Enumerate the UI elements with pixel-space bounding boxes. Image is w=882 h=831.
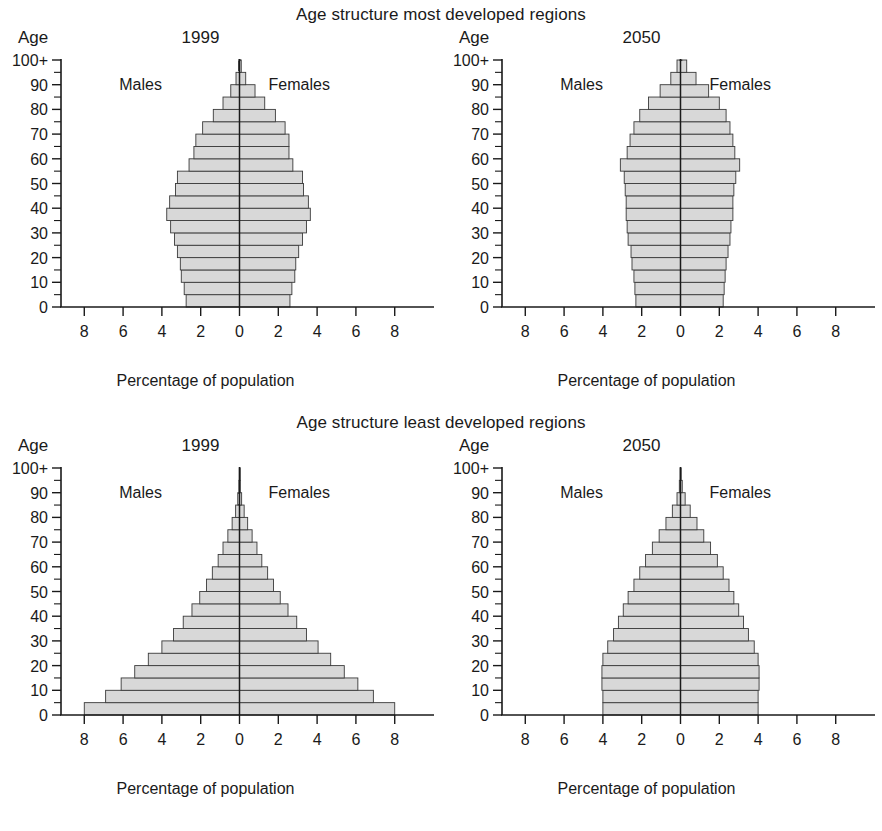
svg-text:90: 90 xyxy=(471,485,489,502)
svg-text:20: 20 xyxy=(30,250,48,267)
svg-text:30: 30 xyxy=(30,225,48,242)
svg-text:2: 2 xyxy=(196,323,205,340)
svg-text:2: 2 xyxy=(715,731,724,748)
svg-text:4: 4 xyxy=(157,323,166,340)
svg-text:8: 8 xyxy=(831,731,840,748)
svg-text:70: 70 xyxy=(471,534,489,551)
svg-text:6: 6 xyxy=(792,731,801,748)
svg-text:10: 10 xyxy=(30,682,48,699)
svg-text:4: 4 xyxy=(157,731,166,748)
svg-text:6: 6 xyxy=(792,323,801,340)
svg-text:80: 80 xyxy=(30,101,48,118)
svg-text:0: 0 xyxy=(480,299,489,316)
svg-text:40: 40 xyxy=(471,608,489,625)
svg-text:4: 4 xyxy=(598,323,607,340)
svg-text:50: 50 xyxy=(30,176,48,193)
x-axis-title: Percentage of population xyxy=(0,780,441,798)
svg-text:100+: 100+ xyxy=(453,54,489,69)
svg-text:2: 2 xyxy=(637,731,646,748)
pyramid-plot-most-1999: 0102030405060708090100+864202468 xyxy=(0,54,441,354)
figure-most-developed: Age structure most developed regions Age… xyxy=(0,0,882,408)
panel-year-label: 1999 xyxy=(0,436,441,456)
svg-text:6: 6 xyxy=(560,323,569,340)
svg-text:60: 60 xyxy=(471,151,489,168)
males-label: Males xyxy=(119,484,162,502)
svg-text:10: 10 xyxy=(471,682,489,699)
svg-text:8: 8 xyxy=(80,323,89,340)
svg-text:0: 0 xyxy=(676,731,685,748)
svg-text:8: 8 xyxy=(390,323,399,340)
panel-head-least-1999: Age 1999 xyxy=(0,436,441,462)
svg-text:90: 90 xyxy=(30,77,48,94)
females-label: Females xyxy=(269,484,330,502)
pyramid-plot-least-1999: 0102030405060708090100+864202468 xyxy=(0,462,441,762)
svg-text:40: 40 xyxy=(30,608,48,625)
svg-text:100+: 100+ xyxy=(12,54,48,69)
svg-text:70: 70 xyxy=(30,126,48,143)
svg-text:40: 40 xyxy=(30,200,48,217)
svg-text:0: 0 xyxy=(480,707,489,724)
svg-text:4: 4 xyxy=(598,731,607,748)
svg-text:60: 60 xyxy=(471,559,489,576)
panel-head-most-2050: Age 2050 xyxy=(441,28,882,54)
panel-most-2050: Age 2050 0102030405060708090100+86420246… xyxy=(441,28,882,398)
x-axis-title: Percentage of population xyxy=(441,780,882,798)
figure-title-least-developed: Age structure least developed regions xyxy=(0,408,882,436)
pyramid-plot-least-2050: 0102030405060708090100+864202468 xyxy=(441,462,882,762)
svg-text:8: 8 xyxy=(831,323,840,340)
svg-text:6: 6 xyxy=(351,323,360,340)
females-label: Females xyxy=(710,76,771,94)
svg-text:50: 50 xyxy=(30,584,48,601)
svg-text:80: 80 xyxy=(471,101,489,118)
svg-text:100+: 100+ xyxy=(12,462,48,477)
svg-text:8: 8 xyxy=(521,731,530,748)
svg-text:2: 2 xyxy=(637,323,646,340)
svg-text:70: 70 xyxy=(471,126,489,143)
svg-text:50: 50 xyxy=(471,176,489,193)
svg-text:6: 6 xyxy=(351,731,360,748)
svg-text:30: 30 xyxy=(471,225,489,242)
panel-year-label: 2050 xyxy=(441,436,882,456)
females-label: Females xyxy=(269,76,330,94)
svg-text:90: 90 xyxy=(30,485,48,502)
svg-text:6: 6 xyxy=(119,731,128,748)
svg-text:2: 2 xyxy=(274,731,283,748)
x-axis-title: Percentage of population xyxy=(0,372,441,390)
svg-text:10: 10 xyxy=(471,274,489,291)
svg-text:30: 30 xyxy=(30,633,48,650)
panel-least-2050: Age 2050 0102030405060708090100+86420246… xyxy=(441,436,882,806)
svg-text:0: 0 xyxy=(39,299,48,316)
panel-year-label: 2050 xyxy=(441,28,882,48)
panel-row-most-developed: Age 1999 0102030405060708090100+86420246… xyxy=(0,28,882,398)
svg-text:8: 8 xyxy=(521,323,530,340)
svg-text:2: 2 xyxy=(274,323,283,340)
svg-text:20: 20 xyxy=(471,250,489,267)
svg-text:2: 2 xyxy=(715,323,724,340)
figure-title-most-developed: Age structure most developed regions xyxy=(0,0,882,28)
svg-text:0: 0 xyxy=(235,323,244,340)
panel-year-label: 1999 xyxy=(0,28,441,48)
svg-text:90: 90 xyxy=(471,77,489,94)
svg-text:4: 4 xyxy=(313,323,322,340)
svg-text:20: 20 xyxy=(30,658,48,675)
svg-text:10: 10 xyxy=(30,274,48,291)
pyramid-plot-most-2050: 0102030405060708090100+864202468 xyxy=(441,54,882,354)
males-label: Males xyxy=(560,484,603,502)
svg-text:4: 4 xyxy=(313,731,322,748)
svg-text:30: 30 xyxy=(471,633,489,650)
figure-least-developed: Age structure least developed regions Ag… xyxy=(0,408,882,831)
females-label: Females xyxy=(710,484,771,502)
svg-text:40: 40 xyxy=(471,200,489,217)
svg-text:0: 0 xyxy=(39,707,48,724)
svg-text:8: 8 xyxy=(80,731,89,748)
x-axis-title: Percentage of population xyxy=(441,372,882,390)
panel-head-least-2050: Age 2050 xyxy=(441,436,882,462)
svg-text:20: 20 xyxy=(471,658,489,675)
svg-text:60: 60 xyxy=(30,151,48,168)
panel-head-most-1999: Age 1999 xyxy=(0,28,441,54)
svg-text:6: 6 xyxy=(119,323,128,340)
males-label: Males xyxy=(560,76,603,94)
svg-text:0: 0 xyxy=(676,323,685,340)
svg-text:60: 60 xyxy=(30,559,48,576)
svg-text:2: 2 xyxy=(196,731,205,748)
